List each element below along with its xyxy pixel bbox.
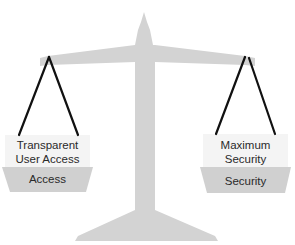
- scale-base: [75, 210, 218, 241]
- left-pan-top-label: Transparent User Access: [5, 138, 90, 166]
- left-pan-top-label-line2: User Access: [5, 152, 90, 166]
- left-pan-bottom-label: Access: [5, 172, 90, 186]
- right-pan-top-label: Maximum Security: [203, 138, 288, 166]
- scale-pillar: [135, 60, 155, 212]
- balance-scale-graphic: [0, 0, 295, 245]
- right-pan-top-label-line1: Maximum: [203, 138, 288, 152]
- scale-finial: [135, 12, 153, 45]
- right-pan-bottom-label: Security: [203, 174, 288, 188]
- right-pan-top-label-line2: Security: [203, 152, 288, 166]
- left-pan-top-label-line1: Transparent: [5, 138, 90, 152]
